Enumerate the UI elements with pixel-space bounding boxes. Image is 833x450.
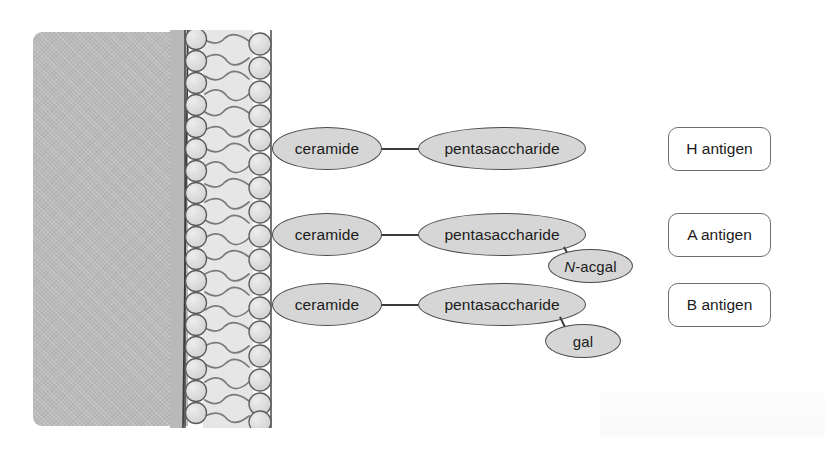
ceramide-ellipse-h: ceramide	[272, 127, 382, 170]
terminal-sugar-ellipse-a: N-acgal	[548, 249, 633, 283]
cell-interior	[33, 32, 188, 426]
ceramide-ellipse-b: ceramide	[272, 283, 382, 326]
antigen-label-h: H antigen	[668, 127, 771, 171]
antigen-label-a: A antigen	[668, 213, 771, 257]
connector-ceramide-core-b	[378, 304, 422, 306]
antigen-label-b: B antigen	[668, 283, 771, 327]
pentasaccharide-ellipse-h: pentasaccharide	[418, 127, 586, 170]
connector-ceramide-core-a	[378, 234, 422, 236]
lipid-bilayer-membrane	[183, 30, 273, 428]
terminal-sugar-italic-prefix: N	[564, 258, 575, 275]
figure-canvas: ceramide pentasaccharide H antigen ceram…	[0, 0, 833, 450]
terminal-sugar-rest: -acgal	[575, 258, 616, 275]
connector-ceramide-core-h	[378, 148, 422, 150]
ceramide-ellipse-a: ceramide	[272, 213, 382, 256]
scan-artifact	[600, 392, 825, 436]
terminal-sugar-ellipse-b: gal	[545, 324, 621, 358]
pentasaccharide-ellipse-a: pentasaccharide	[418, 213, 586, 256]
